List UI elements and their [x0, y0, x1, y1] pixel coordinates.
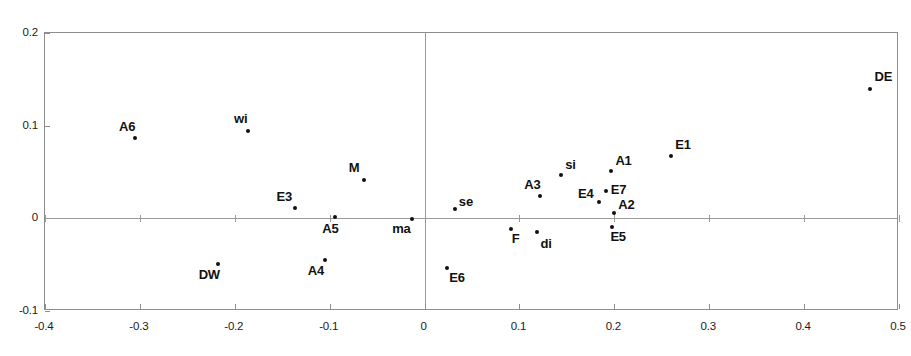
data-point-marker: [868, 87, 872, 91]
x-axis-tick: [709, 304, 710, 309]
data-point-marker: [216, 262, 220, 266]
data-point-label: E7: [611, 183, 627, 196]
data-point-label: E6: [449, 271, 465, 284]
x-axis-tick: [425, 304, 426, 309]
x-axis-tick: [614, 304, 615, 309]
data-point-label: A3: [524, 178, 540, 191]
x-axis-tick: [519, 304, 520, 309]
y-axis-tick: [45, 218, 52, 219]
y-axis-tick: [45, 311, 50, 312]
x-axis-inner-tick: [899, 215, 900, 222]
x-tick-label: 0.5: [890, 320, 905, 332]
x-axis-inner-tick: [140, 215, 141, 222]
y-zero-axis-line: [45, 218, 897, 219]
x-axis-inner-tick: [519, 215, 520, 222]
x-tick-label: -0.2: [224, 320, 243, 332]
x-axis-tick: [804, 304, 805, 309]
x-axis-tick: [45, 304, 46, 309]
x-axis-tick: [330, 304, 331, 309]
data-point-marker: [133, 136, 137, 140]
x-axis-inner-tick: [614, 215, 615, 222]
y-tick-label: 0.1: [23, 119, 38, 131]
x-axis-tick: [899, 304, 900, 309]
data-point-label: DE: [875, 70, 893, 83]
x-tick-label: -0.4: [34, 320, 53, 332]
x-axis-inner-tick: [425, 215, 426, 222]
data-point-label: di: [540, 237, 551, 250]
x-axis-tick: [235, 304, 236, 309]
data-point-marker: [559, 173, 563, 177]
data-point-label: A5: [322, 222, 338, 235]
y-tick-label: 0.2: [23, 26, 38, 38]
x-tick-label: 0: [420, 320, 426, 332]
data-point-label: A2: [618, 198, 634, 211]
data-point-label: A1: [615, 154, 631, 167]
data-point-label: A4: [308, 264, 324, 277]
y-axis-tick: [45, 126, 50, 127]
data-point-label: E5: [610, 230, 626, 243]
data-point-label: ma: [392, 222, 410, 235]
scatter-plot-figure: A6wiME3A5maDWA4seE6FdiA3siE4E7A1A2E5E1DE…: [0, 0, 911, 356]
y-tick-label: -0.1: [19, 304, 38, 316]
data-point-label: se: [459, 195, 473, 208]
data-point-label: F: [512, 232, 520, 245]
x-tick-label: 0.4: [795, 320, 810, 332]
data-point-label: DW: [199, 268, 220, 281]
data-point-marker: [453, 207, 457, 211]
plot-area: [44, 32, 898, 310]
data-point-label: A6: [119, 120, 135, 133]
x-axis-inner-tick: [804, 215, 805, 222]
x-axis-inner-tick: [709, 215, 710, 222]
data-point-marker: [597, 200, 601, 204]
y-tick-label: 0: [32, 211, 38, 223]
x-tick-label: 0.2: [606, 320, 621, 332]
x-tick-label: 0.3: [701, 320, 716, 332]
data-point-label: E1: [675, 138, 691, 151]
x-tick-label: -0.1: [319, 320, 338, 332]
data-point-label: si: [565, 158, 575, 171]
x-tick-label: 0.1: [511, 320, 526, 332]
data-point-marker: [293, 206, 297, 210]
x-axis-inner-tick: [235, 215, 236, 222]
data-point-label: wi: [234, 112, 247, 125]
data-point-label: E4: [578, 187, 594, 200]
data-point-marker: [323, 258, 327, 262]
data-point-marker: [612, 211, 616, 215]
data-point-label: M: [349, 161, 360, 174]
x-zero-axis-line: [425, 33, 426, 309]
x-axis-tick: [140, 304, 141, 309]
y-axis-tick: [45, 33, 50, 34]
data-point-label: E3: [277, 190, 293, 203]
x-tick-label: -0.3: [129, 320, 148, 332]
